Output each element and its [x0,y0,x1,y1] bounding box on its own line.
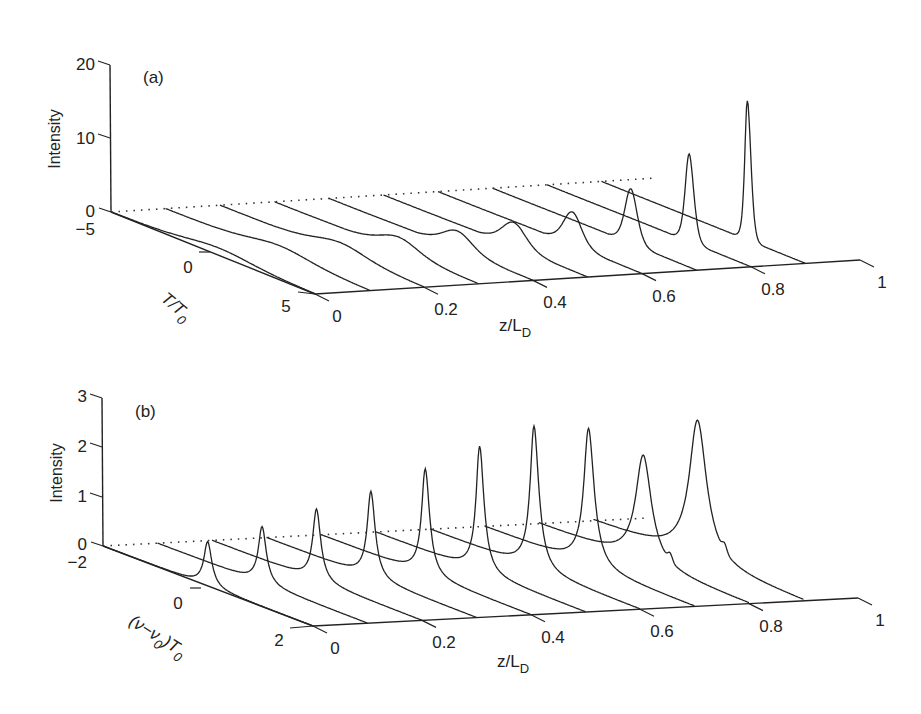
tick [90,394,102,398]
x-tick-label: 0 [330,639,339,658]
panel-b-x-ticks: 00.20.40.60.81 [313,598,885,658]
tick [98,61,110,65]
waterfall-curve [438,192,642,274]
waterfall-curve [485,428,695,606]
tick [640,609,654,616]
tick [858,598,872,605]
tick [422,620,436,627]
x-tick-label: 1 [877,273,886,292]
panel-b-ytick-m2: −2 [68,553,87,572]
panel-a-zlabel: Intensity [46,109,63,169]
x-tick-label: 0.4 [543,293,567,312]
tick [98,134,110,138]
panel-a-ytick-0: 0 [183,258,192,277]
panel-a-curves [111,101,806,294]
tick [90,443,102,447]
panel-a-ytick-m5: −5 [76,220,95,239]
panel-b-zlabel: Intensity [48,443,65,503]
x-tick-label: 1 [875,611,884,630]
waterfall-curve [493,188,697,270]
panel-a: 20 10 0 −5 0 5 00.20.40.60.81 Intensity … [46,55,887,340]
panel-b-xlabel: z/LD [497,652,529,676]
x-tick-label: 0.8 [759,617,783,636]
tick [860,260,874,267]
panel-b-ztick-2: 2 [78,437,87,456]
svg-text:T/T0: T/T0 [154,289,195,329]
x-tick-label: 0.2 [434,300,458,319]
x-tick-label: 0.6 [650,622,674,641]
tick [290,626,313,628]
figure: 20 10 0 −5 0 5 00.20.40.60.81 Intensity … [0,0,921,714]
tick [531,615,545,622]
panel-b-ztick-3: 3 [78,387,87,406]
panel-a-xlabel: z/LD [499,316,531,340]
x-tick-label: 0.8 [761,280,785,299]
panel-a-z-axis [110,65,111,212]
tick [533,280,547,287]
panel-a-ztick-20: 20 [76,55,95,74]
panel-b: 3 2 1 0 −2 0 2 00.20.40.60.81 Intensity … [48,387,885,676]
panel-b-panel-label: (b) [135,402,156,421]
tick [315,294,329,301]
panel-b-z-axis [102,398,103,546]
x-tick-label: 0 [332,307,341,326]
tick [749,604,763,611]
svg-text:(ν−ν0)T0: (ν−ν0)T0 [123,611,190,665]
x-tick-label: 0.2 [432,633,456,652]
panel-a-ztick-0: 0 [86,202,95,221]
tick [751,267,765,274]
panel-b-ytick-0: 0 [173,594,182,613]
x-tick-label: 0.6 [652,287,676,306]
waterfall-curve [267,491,477,617]
waterfall-curve [376,446,586,612]
panel-b-ztick-0: 0 [78,535,87,554]
panel-a-ztick-10: 10 [76,129,95,148]
tick [313,626,327,633]
panel-a-panel-label: (a) [143,68,164,87]
waterfall-curve [158,527,368,624]
x-tick-label: 0.4 [541,628,565,647]
panel-b-ylabel: (ν−ν0)T0 [123,611,190,665]
tick [90,493,102,497]
panel-a-x-ticks: 00.20.40.60.81 [315,260,887,326]
panel-b-ytick-2: 2 [274,631,283,650]
waterfall-curve [430,426,640,609]
panel-b-ztick-1: 1 [78,487,87,506]
panel-a-ylabel: T/T0 [154,289,195,329]
waterfall-curve [594,420,804,599]
tick [424,287,438,294]
tick [91,542,103,546]
panel-a-ytick-5: 5 [281,297,290,316]
panel-b-curves [103,420,804,626]
tick [642,274,656,281]
tick [99,208,111,212]
